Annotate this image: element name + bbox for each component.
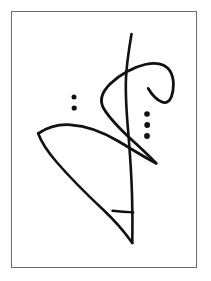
leaf-loop-sweep	[101, 63, 173, 163]
right-dot-triple	[144, 111, 150, 139]
abstract-line-drawing	[0, 0, 211, 281]
left-lens-upper	[38, 125, 156, 164]
right-dot-triple-dot-3	[144, 133, 150, 139]
left-dot-pair	[72, 95, 77, 111]
artwork-page: Abstract black brush-stroke composition …	[0, 0, 211, 281]
left-lens-lower	[38, 134, 132, 244]
right-dot-triple-dot-2	[144, 122, 150, 128]
bottom-crossbar	[113, 211, 134, 213]
ink-stroke-group	[38, 34, 173, 243]
left-dot-pair-dot-1	[72, 95, 77, 100]
left-dot-pair-dot-2	[72, 105, 77, 110]
right-dot-triple-dot-1	[144, 111, 150, 117]
